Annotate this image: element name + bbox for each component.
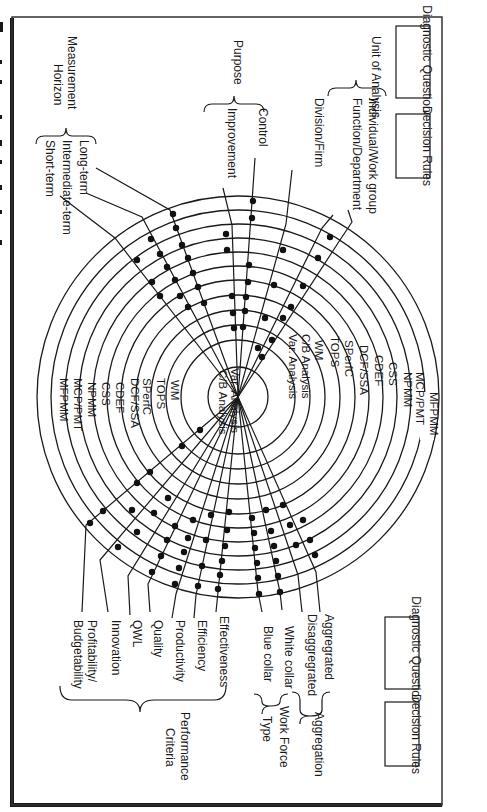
top-legend: Diagnostic Questions Decision Rules bbox=[396, 5, 434, 186]
measurement-technique-wheel-diagram: Diagnostic Questions Decision Rules Diag… bbox=[0, 0, 487, 812]
criteria-profitability-2: Budgetability bbox=[71, 620, 85, 689]
ring-label-css: CSS bbox=[387, 362, 399, 386]
measurement-horizon-group: Measurement Horizon Long-term Intermedia… bbox=[36, 36, 96, 235]
diagnostic-questions-label-bottom: Diagnostic Questions bbox=[409, 596, 423, 709]
ring-label-wm: WM bbox=[313, 340, 325, 360]
criteria-qwl: QWL bbox=[130, 620, 144, 648]
ring-label-mfpmm: MFPMM bbox=[428, 392, 440, 435]
ring-label-npmm: NPMM bbox=[402, 372, 414, 407]
criteria-innovation: Innovation bbox=[109, 620, 123, 675]
horizon-option-long: Long-term bbox=[77, 140, 91, 195]
ring-label-css-left: CSS bbox=[100, 382, 112, 406]
workforce-option-blue-collar: Blue collar bbox=[261, 626, 275, 682]
criteria-effectiveness: Effectiveness bbox=[217, 616, 231, 687]
unit-option-individual: Individual/Work group bbox=[366, 98, 380, 214]
ring-label-npmm-left: NPMM bbox=[86, 382, 98, 417]
criteria-profitability-1: Profitability/ bbox=[85, 620, 99, 683]
ring-label-mcp-pmt-left: MCP/PMT bbox=[72, 378, 84, 431]
ring-label-cb-analysis: C/B Analysis bbox=[300, 334, 312, 399]
ring-label-sperfc-left: SPerfC bbox=[141, 378, 153, 415]
measurement-horizon-title-2: Horizon bbox=[51, 64, 65, 105]
diagnostic-questions-label-top: Diagnostic Questions bbox=[420, 5, 434, 118]
ring-label-cdef-left: CDEF bbox=[114, 382, 126, 413]
ring-label-mfpmm-left: MFPMM bbox=[58, 378, 70, 421]
ring-label-cdef: CDEF bbox=[373, 355, 385, 386]
decision-rules-label-top: Decision Rules bbox=[420, 106, 434, 186]
purpose-group: Purpose Control Improvement bbox=[204, 40, 270, 179]
work-force-type-group: White collar Blue collar Work Force Type bbox=[254, 626, 296, 768]
ring-label-tops: TOPS bbox=[329, 336, 341, 367]
criteria-efficiency: Efficiency bbox=[195, 620, 209, 671]
ring-label-cb-analysis-left: C/B Analysis bbox=[217, 370, 229, 435]
criteria-title-1: Performance bbox=[178, 712, 192, 781]
unit-option-function: Function/Department bbox=[350, 98, 364, 211]
measurement-horizon-title-1: Measurement bbox=[65, 36, 79, 110]
aggregation-title: Aggregation bbox=[312, 712, 326, 777]
purpose-title: Purpose bbox=[231, 40, 245, 85]
ring-label-sperfc: SPerfC bbox=[343, 340, 355, 377]
aggregation-option-disaggregated: Disaggregrated bbox=[305, 614, 319, 696]
ring-label-var-analysis-left: Var. Analysis bbox=[229, 368, 241, 433]
workforce-title-1: Work Force bbox=[277, 706, 291, 768]
ring-label-dcf-ssa-left: DCF/SSA bbox=[129, 378, 141, 428]
workforce-option-white-collar: White collar bbox=[282, 626, 296, 689]
ring-labels-left: Var. Analysis C/B Analysis WM TOPS SPerf… bbox=[58, 368, 241, 435]
horizon-option-intermediate: Intermediate-term bbox=[60, 140, 74, 235]
ring-label-dcf-ssa: DCF/SSA bbox=[358, 345, 370, 395]
ring-label-var-analysis: Var. Analysis bbox=[287, 334, 299, 399]
ring-label-tops-left: TOPS bbox=[155, 378, 167, 409]
caption-fragment bbox=[0, 22, 3, 245]
unit-option-division: Division/Firm bbox=[312, 98, 326, 167]
decision-rules-label-bottom: Decision Rules bbox=[409, 694, 423, 774]
ring-label-wm-left: WM bbox=[169, 380, 181, 400]
criteria-quality: Quality bbox=[151, 620, 165, 657]
purpose-option-improvement: Improvement bbox=[225, 108, 239, 179]
criteria-title-2: Criteria bbox=[163, 728, 177, 767]
bottom-legend: Diagnostic Questions Decision Rules bbox=[385, 596, 423, 774]
aggregation-option-aggregated: Aggregrated bbox=[322, 614, 336, 680]
criteria-productivity: Productivity bbox=[173, 620, 187, 682]
purpose-option-control: Control bbox=[256, 108, 270, 147]
unit-of-analysis-group: Unit of Analysis Individual/Work group F… bbox=[312, 36, 386, 214]
ring-labels-right: MFPMM MCP/PMT NPMM CSS CDEF DCF/SSA SPer… bbox=[287, 334, 440, 440]
workforce-title-2: Type bbox=[260, 716, 274, 742]
aggregation-group: Aggregrated Disaggregrated Aggregation bbox=[292, 614, 336, 777]
performance-criteria-group: Effectiveness Efficiency Productivity Qu… bbox=[60, 616, 231, 781]
ring-label-mcp-pmt: MCP/PMT bbox=[414, 372, 426, 425]
horizon-option-short: Short-term bbox=[43, 140, 57, 197]
